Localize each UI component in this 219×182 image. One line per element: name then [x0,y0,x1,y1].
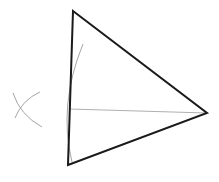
diagram-canvas [0,0,219,182]
background [0,0,219,182]
construction-figure [0,0,219,182]
